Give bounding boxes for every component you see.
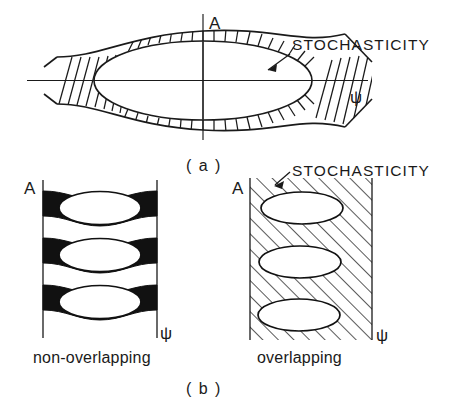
- panel-b-left-island-1: [43, 191, 157, 226]
- panel-a-outer-lower-edge: [57, 104, 345, 131]
- panel-b-left-axis-label-psi: ψ: [160, 324, 172, 343]
- panel-a-wing-lower-left: [44, 94, 57, 104]
- panel-b-right-island-2: [259, 246, 341, 278]
- panel-a: STOCHASTICITY A ψ ( a ): [27, 14, 430, 174]
- panel-a-caption: ( a ): [186, 157, 222, 174]
- panel-b-left: A ψ non-overlapping: [24, 179, 172, 366]
- panel-b-right-sublabel: overlapping: [257, 349, 342, 366]
- panel-b-right: STOCHASTICITY A ψ overlapping: [232, 162, 430, 366]
- panel-b-left-island-2: [43, 238, 157, 273]
- panel-b-right-stochasticity-label: STOCHASTICITY: [292, 162, 430, 179]
- panel-b-caption: ( b ): [186, 380, 222, 397]
- panel-b-right-island-3: [258, 299, 340, 331]
- panel-b-left-sublabel: non-overlapping: [33, 349, 151, 366]
- panel-a-stochasticity-arrowhead: [268, 64, 277, 72]
- panel-b-left-axis-label-A: A: [24, 179, 36, 198]
- panel-a-stochasticity-label: STOCHASTICITY: [292, 36, 430, 53]
- panel-b-right-axis-label-psi: ψ: [376, 326, 388, 345]
- panel-b-right-axis-label-A: A: [232, 179, 244, 198]
- panel-a-axis-label-psi: ψ: [350, 88, 362, 107]
- diagram-canvas: STOCHASTICITY A ψ ( a ) A ψ: [0, 0, 449, 415]
- panel-b-left-island-3: [43, 285, 157, 320]
- panel-a-wing-upper-left: [44, 57, 57, 67]
- panel-b-right-island-1: [261, 192, 343, 224]
- panel-a-stochasticity-leader: [268, 54, 290, 70]
- figure-root: STOCHASTICITY A ψ ( a ) A ψ: [0, 0, 449, 415]
- panel-a-axis-label-A: A: [209, 14, 221, 33]
